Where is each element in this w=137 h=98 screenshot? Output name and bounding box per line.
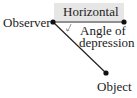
object-label: Object [97, 80, 132, 93]
observer-point [50, 19, 55, 24]
object-point [103, 70, 108, 75]
observer-label: Observer [3, 16, 51, 29]
horizontal-label: Horizontal [63, 5, 119, 18]
angle-label-line2: depression [79, 36, 135, 49]
